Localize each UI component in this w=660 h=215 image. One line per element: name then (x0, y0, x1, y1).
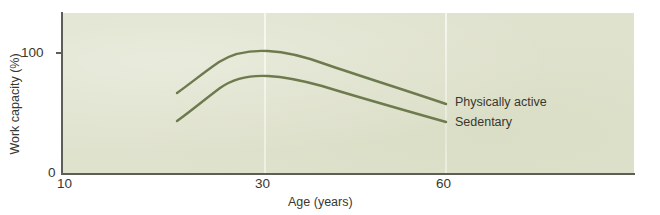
x-tick-label-60: 60 (436, 177, 451, 191)
y-tick-mark-100 (56, 52, 61, 54)
x-axis-line (61, 173, 635, 175)
legend-label-sedentary: Sedentary (455, 116, 512, 129)
y-tick-label-0: 0 (48, 166, 56, 180)
curve-sedentary (177, 76, 446, 122)
x-tick-label-30: 30 (255, 177, 270, 191)
work-capacity-vs-age-chart: 100 0 10 30 60 Age (years) Work capacity… (0, 0, 660, 215)
y-axis-title: Work capacity (%) (9, 24, 27, 184)
curve-physically-active (177, 51, 446, 104)
legend-label-physically-active: Physically active (455, 96, 547, 109)
y-axis-line (61, 12, 63, 175)
x-axis-title: Age (years) (288, 196, 353, 209)
data-curves (63, 13, 634, 174)
x-tick-label-10: 10 (57, 177, 72, 191)
